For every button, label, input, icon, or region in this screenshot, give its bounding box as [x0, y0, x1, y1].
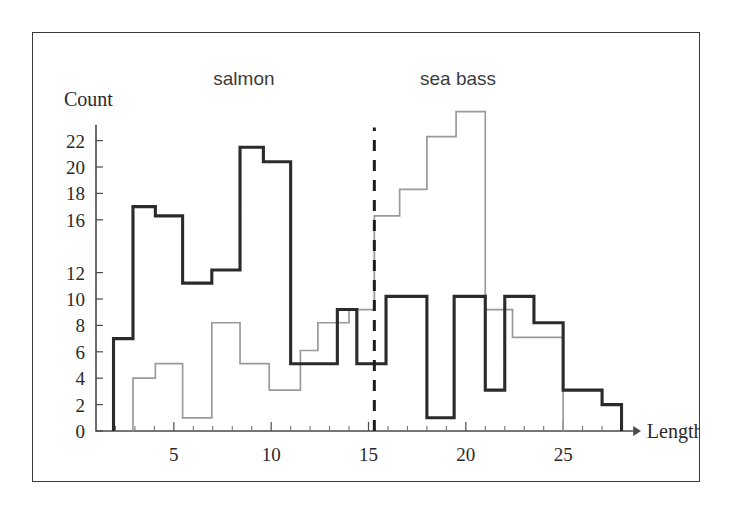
x-tick-label: 25	[554, 444, 573, 465]
axis-lines	[96, 125, 633, 431]
y-tick-label: 22	[66, 131, 85, 152]
y-tick-label: 10	[66, 289, 85, 310]
x-axis-title: Length	[647, 420, 699, 443]
y-tick-label: 18	[66, 183, 85, 204]
y-tick-label: 12	[66, 263, 85, 284]
salmon-region-label: salmon	[213, 68, 274, 89]
tick-marks-group	[96, 141, 622, 431]
x-axis-arrow-icon	[633, 426, 641, 436]
y-tick-label: 2	[76, 395, 86, 416]
y-tick-label: 6	[76, 342, 86, 363]
x-tick-label: 15	[359, 444, 378, 465]
figure-root: 02468101216182022 510152025 Count Length…	[0, 0, 736, 516]
histogram-plot: 02468101216182022 510152025 Count Length…	[33, 33, 699, 481]
axes-group	[96, 125, 641, 436]
x-tick-label: 10	[262, 444, 281, 465]
y-tick-label: 8	[76, 315, 86, 336]
y-axis-title: Count	[64, 88, 113, 110]
y-tick-labels-group: 02468101216182022	[66, 131, 86, 442]
x-tick-label: 5	[169, 444, 179, 465]
sea-bass-region-label: sea bass	[420, 68, 496, 89]
y-tick-label: 16	[66, 210, 85, 231]
series-sea-bass	[133, 112, 563, 431]
data-series-group	[114, 112, 622, 431]
x-tick-label: 20	[456, 444, 475, 465]
figure-frame: 02468101216182022 510152025 Count Length…	[32, 32, 700, 482]
series-salmon	[114, 147, 622, 431]
y-tick-label: 20	[66, 157, 85, 178]
y-tick-label: 4	[76, 368, 86, 389]
x-tick-labels-group: 510152025	[169, 444, 573, 465]
y-tick-label: 0	[76, 421, 86, 442]
